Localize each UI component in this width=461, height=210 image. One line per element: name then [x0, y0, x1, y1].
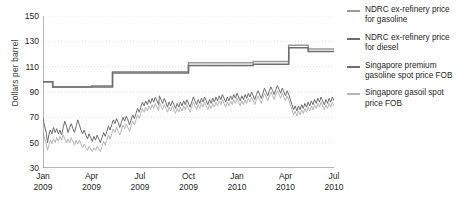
x-axis-tick-labels: Jan2009Apr2009Jul2009Oct2009Jan2010Apr20…	[0, 171, 380, 205]
series-line-1	[43, 48, 334, 87]
legend-item-0: NDRC ex-refinery price for gasoline	[347, 5, 461, 26]
chart-legend: NDRC ex-refinery price for gasolineNDRC …	[347, 5, 461, 116]
legend-item-2: Singapore premium gasoline spot price FO…	[347, 61, 461, 82]
x-tick-month: Jul	[120, 171, 160, 182]
x-tick-month: Apr	[72, 171, 112, 182]
plot-area	[43, 16, 334, 168]
y-tick-70: 70	[30, 112, 39, 122]
x-tick-Apr-2010: Apr2010	[266, 171, 306, 193]
legend-item-1: NDRC ex-refinery price for diesel	[347, 33, 461, 54]
x-tick-Jan-2009: Jan2009	[23, 171, 63, 193]
x-tick-month: Oct	[169, 171, 209, 182]
x-tick-year: 2009	[120, 182, 160, 193]
series-line-2	[43, 86, 334, 143]
chart-container: Dollars per barrel 15013011090705030 Jan…	[0, 0, 461, 210]
x-tick-month: Jul	[314, 171, 354, 182]
legend-swatch-icon	[347, 66, 360, 68]
x-tick-year: 2009	[23, 182, 63, 193]
legend-label: NDRC ex-refinery price for gasoline	[365, 5, 461, 26]
legend-label: Singapore gasoil spot price FOB	[365, 88, 461, 109]
legend-swatch-icon	[347, 93, 360, 95]
x-tick-Oct-2009: Oct2009	[169, 171, 209, 193]
legend-label: NDRC ex-refinery price for diesel	[365, 33, 461, 54]
x-tick-year: 2009	[169, 182, 209, 193]
x-tick-Apr-2009: Apr2009	[72, 171, 112, 193]
y-tick-90: 90	[30, 87, 39, 97]
x-tick-Jul-2009: Jul2009	[120, 171, 160, 193]
x-tick-year: 2009	[72, 182, 112, 193]
x-tick-month: Apr	[266, 171, 306, 182]
y-tick-130: 130	[25, 36, 39, 46]
plot-svg	[43, 16, 334, 168]
legend-label: Singapore premium gasoline spot price FO…	[365, 61, 461, 82]
legend-swatch-icon	[347, 10, 360, 12]
legend-swatch-icon	[347, 38, 360, 40]
x-tick-month: Jan	[217, 171, 257, 182]
x-tick-Jul-2010: Jul2010	[314, 171, 354, 193]
y-tick-50: 50	[30, 138, 39, 148]
x-tick-year: 2010	[266, 182, 306, 193]
y-tick-150: 150	[25, 11, 39, 21]
legend-item-3: Singapore gasoil spot price FOB	[347, 88, 461, 109]
y-tick-110: 110	[25, 62, 39, 72]
x-tick-month: Jan	[23, 171, 63, 182]
x-tick-year: 2010	[217, 182, 257, 193]
x-tick-year: 2010	[314, 182, 354, 193]
x-tick-Jan-2010: Jan2010	[217, 171, 257, 193]
y-axis-tick-labels: 15013011090705030	[14, 16, 39, 168]
